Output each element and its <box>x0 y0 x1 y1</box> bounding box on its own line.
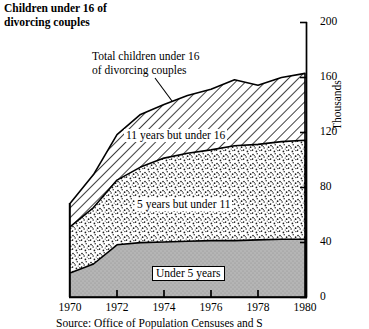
band-label-5-to-11: 5 years but under 11 <box>135 198 232 211</box>
band-label-11-to-16: 11 years but under 16 <box>124 129 227 142</box>
x-tick-label-1972: 1972 <box>97 302 137 314</box>
x-tick-label-1974: 1974 <box>144 302 184 314</box>
y-tick-label-200: 200 <box>320 16 337 28</box>
y-tick-label-0: 0 <box>320 291 326 303</box>
band-label-under-5: Under 5 years <box>152 266 225 281</box>
y-tick-label-40: 40 <box>320 236 332 248</box>
x-tick-label-1978: 1978 <box>238 302 278 314</box>
x-tick-label-1976: 1976 <box>191 302 231 314</box>
y-tick-label-80: 80 <box>320 181 332 193</box>
x-tick-label-1980: 1980 <box>285 302 325 314</box>
x-tick-label-1970: 1970 <box>50 302 90 314</box>
annotation-total-children: Total children under 16 of divorcing cou… <box>92 50 242 77</box>
source-note: Source: Office of Population Censuses an… <box>56 317 366 329</box>
y-axis-title: Thousands <box>331 80 343 130</box>
callout-leader-line <box>155 78 172 101</box>
